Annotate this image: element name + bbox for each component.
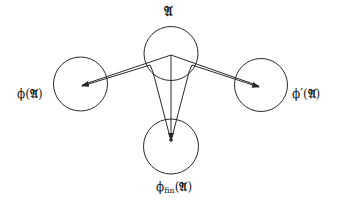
label-A: 𝔄: [164, 5, 173, 18]
circle-phi-A: [54, 57, 108, 111]
mapping-diagram: [0, 0, 337, 202]
label-phi-fin-A-prefix: ϕ: [156, 180, 164, 194]
label-phi-prime-A-suffix: ): [316, 87, 321, 101]
label-phi-fin-A-subscript: fin: [164, 186, 175, 195]
label-phi-fin-A-suffix: ): [187, 180, 192, 194]
label-phi-prime-A: ϕ′(𝔄): [292, 88, 320, 100]
circle-phi-prime-A: [235, 59, 288, 112]
label-A-text: 𝔄: [164, 4, 173, 19]
label-phi-A-prefix: ϕ(: [17, 87, 30, 101]
arrow-to-phi-A: [82, 55, 171, 86]
label-phi-prime-A-prefix: ϕ′(: [292, 87, 308, 101]
label-phi-fin-A: ϕfin(𝔄): [156, 181, 192, 193]
label-phi-A-suffix: ): [38, 87, 43, 101]
label-phi-A-frak: 𝔄: [30, 87, 38, 101]
arrow-to-phi-prime-A: [171, 55, 259, 87]
arrow-to-phi-fin-A: [153, 55, 189, 141]
label-phi-prime-A-frak: 𝔄: [308, 87, 316, 101]
label-phi-A: ϕ(𝔄): [17, 88, 43, 100]
dot-phi-fin-A: [170, 139, 173, 142]
